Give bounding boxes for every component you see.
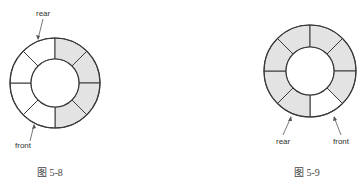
front-pointer-5-8: front [15, 124, 36, 150]
front-label-5-9: front [333, 137, 350, 146]
inner-circle [31, 59, 79, 107]
front-pointer-5-9: front [333, 116, 350, 146]
rear-label-5-9: rear [276, 137, 291, 146]
caption-5-8: 图 5-8 [37, 167, 63, 178]
front-label-5-8: front [15, 141, 32, 150]
rear-pointer-5-9: rear [276, 116, 292, 146]
caption-5-9: 图 5-9 [294, 167, 320, 178]
diagram-canvas: rear front 图 5-8 rear front 图 5-9 [0, 0, 359, 182]
rear-label-5-8: rear [36, 9, 51, 18]
rear-pointer-5-8: rear [36, 9, 51, 40]
circular-queue-ring-5-9 [264, 25, 356, 117]
circular-queue-ring-5-8 [10, 38, 100, 128]
inner-circle [286, 47, 334, 95]
